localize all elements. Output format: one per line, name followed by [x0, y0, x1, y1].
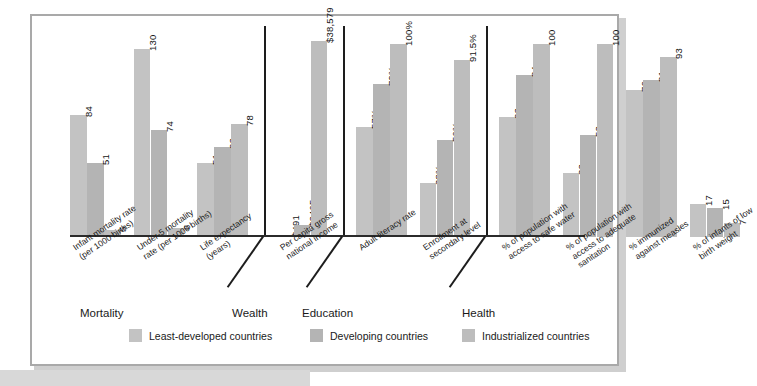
group-label-health: Health [462, 307, 495, 319]
legend-label: Least-developed countries [149, 330, 272, 342]
legend-item[interactable]: Industrialized countries [462, 329, 589, 342]
bar [516, 75, 533, 237]
bar-value-label: 74 [164, 121, 175, 132]
bar [70, 115, 87, 237]
group-separator [486, 26, 488, 235]
group-separator [343, 26, 345, 235]
bar-value-label: 51 [100, 154, 111, 165]
bar [660, 57, 677, 237]
bar-value-label: 100% [403, 21, 414, 46]
bar [311, 41, 328, 237]
bar [356, 127, 373, 237]
bar-value-label: $38,579 [324, 7, 335, 43]
legend-label: Developing countries [330, 330, 428, 342]
legend-item[interactable]: Developing countries [310, 329, 428, 342]
group-separator [264, 26, 266, 235]
bar-value-label: 78 [244, 115, 255, 126]
bar-value-label: 100 [546, 29, 557, 45]
bar-value-label: 91.5% [467, 34, 478, 62]
group-label-wealth: Wealth [232, 307, 268, 319]
bar [420, 183, 437, 237]
legend-swatch [310, 329, 323, 342]
bar [499, 117, 516, 237]
bottom-strip [0, 370, 310, 386]
bar [643, 80, 660, 237]
bars-layer: 84515130746516278$491$2405$38,57957%79%1… [32, 16, 617, 237]
plot-area: 84515130746516278$491$2405$38,57957%79%1… [32, 16, 617, 364]
bar-value-label: 130 [147, 34, 158, 50]
group-label-education: Education [302, 307, 353, 319]
bar [151, 130, 168, 237]
bar [580, 135, 597, 237]
bar-value-label: 84 [83, 106, 94, 117]
bar-value-label: 100 [610, 29, 621, 45]
bar-value-label: 93 [673, 48, 684, 59]
bar [533, 44, 550, 237]
chart-frame: 84515130746516278$491$2405$38,57957%79%1… [30, 14, 619, 366]
bar-value-label: 15 [720, 199, 731, 210]
bar [390, 44, 407, 237]
legend-swatch [129, 329, 142, 342]
chart-legend: Least-developed countriesDeveloping coun… [32, 329, 617, 351]
bar [597, 44, 614, 237]
legend-item[interactable]: Least-developed countries [129, 329, 272, 342]
legend-swatch [462, 329, 475, 342]
group-label-mortality: Mortality [80, 307, 123, 319]
legend-label: Industrialized countries [482, 330, 589, 342]
bar-value-label: 17 [703, 195, 714, 206]
bar [454, 60, 471, 237]
bar [373, 84, 390, 237]
bar [690, 204, 707, 237]
